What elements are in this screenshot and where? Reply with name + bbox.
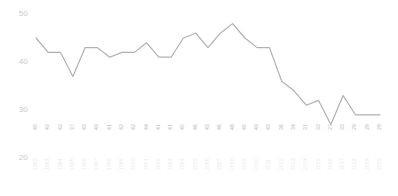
x-axis-tick-label: 2017 (339, 158, 345, 170)
x-axis-tick-label: 1996 (81, 158, 87, 170)
x-axis-tick-label: 2020 (376, 158, 382, 170)
x-axis-tick-label: 2008 (229, 158, 235, 170)
x-axis-tick-label: 2015 (315, 158, 321, 170)
x-axis-tick-label: 2018 (351, 158, 357, 170)
x-axis-tick-label: 2009 (241, 158, 247, 170)
x-axis-tick-label: 1994 (57, 158, 63, 170)
x-axis-tick-label: 2006 (204, 158, 210, 170)
x-axis-tick-label: 2014 (302, 158, 308, 170)
x-axis-tick-label: 2013 (290, 158, 296, 170)
x-axis-tick-label: 2010 (253, 158, 259, 170)
x-axis-tick-label: 2012 (278, 158, 284, 170)
x-axis-tick-label: 2003 (167, 158, 173, 170)
x-axis-tick-label: 2016 (327, 158, 333, 170)
x-axis-tick-label: 2011 (265, 159, 271, 170)
x-axis-tick-label: 1993 (44, 158, 50, 170)
line-chart: 50403020 4542423743434142424441414546434… (0, 0, 398, 196)
x-axis-tick-label: 2007 (216, 158, 222, 170)
x-axis-tick-label: 1992 (32, 158, 38, 170)
x-axis-tick-label: 2005 (192, 158, 198, 170)
x-axis-tick-label: 1997 (93, 158, 99, 170)
x-axis-tick-label: 1995 (69, 158, 75, 170)
x-axis-tick-label: 1998 (106, 158, 112, 170)
x-axis-tick-label: 1999 (118, 158, 124, 170)
x-axis-tick-label: 2000 (130, 158, 136, 170)
x-axis-tick-label: 2004 (179, 158, 185, 170)
x-axis-tick-label: 2001 (143, 158, 149, 170)
x-axis-tick-label: 2002 (155, 158, 161, 170)
x-axis-tick-label: 2019 (364, 158, 370, 170)
x-axis: 1992199319941995199619971998199920002001… (0, 0, 398, 196)
